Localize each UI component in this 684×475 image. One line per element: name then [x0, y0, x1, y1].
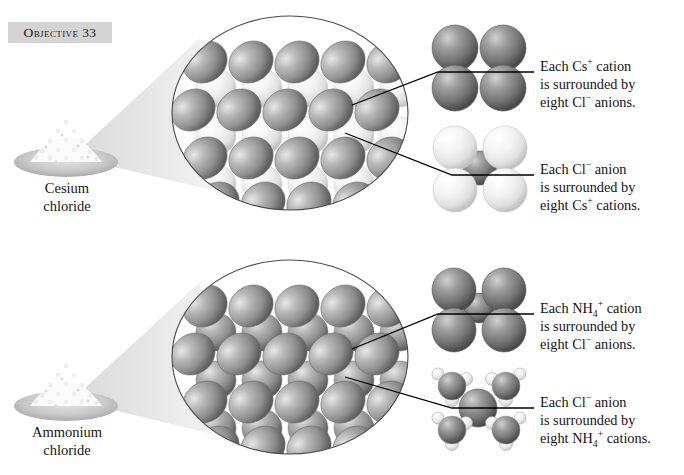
cluster-cl-surrounded-by-cs: [433, 126, 527, 212]
caption-cesium-chloride: Cesium chloride: [2, 180, 132, 215]
crystal-structure-figure: Objective 33 Cesium chloride Ammonium ch…: [0, 0, 684, 475]
cluster-nh4-surrounded-by-cl: [432, 268, 526, 352]
objective-badge: Objective 33: [8, 22, 112, 43]
annotation-line-1: Each NH4+ cation: [540, 299, 642, 317]
cluster-cl-surrounded-by-nh4: [432, 368, 526, 451]
caption-line-2: chloride: [2, 442, 132, 460]
annotation-line-1: Each Cs+ cation: [540, 57, 636, 75]
annotation-cl-anion-2: Each Cl− anion is surrounded by eight NH…: [540, 393, 651, 447]
annotation-line-3: eight Cl− anions.: [540, 335, 642, 353]
annotation-line-3: eight NH4+ cations.: [540, 429, 651, 447]
caption-line-1: Ammonium: [2, 424, 132, 442]
annotation-nh4-cation: Each NH4+ cation is surrounded by eight …: [540, 299, 642, 353]
annotation-line-1: Each Cl− anion: [540, 393, 651, 411]
caption-ammonium-chloride: Ammonium chloride: [2, 424, 132, 459]
annotation-line-1: Each Cl− anion: [540, 160, 640, 178]
annotation-line-3: eight Cs+ cations.: [540, 196, 640, 214]
objective-label: Objective 33: [8, 22, 112, 43]
annotation-line-2: is surrounded by: [540, 411, 651, 429]
annotation-cs-cation: Each Cs+ cation is surrounded by eight C…: [540, 57, 636, 111]
annotation-line-2: is surrounded by: [540, 178, 640, 196]
annotation-cl-anion: Each Cl− anion is surrounded by eight Cs…: [540, 160, 640, 214]
annotation-line-2: is surrounded by: [540, 75, 636, 93]
caption-line-1: Cesium: [2, 180, 132, 198]
annotation-line-2: is surrounded by: [540, 317, 642, 335]
cluster-cs-surrounded-by-cl: [432, 25, 526, 111]
annotation-line-3: eight Cl− anions.: [540, 93, 636, 111]
caption-line-2: chloride: [2, 198, 132, 216]
